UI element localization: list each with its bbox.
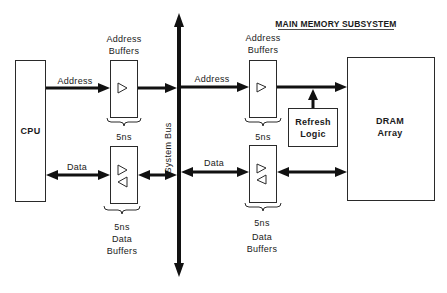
arrow-left-icon — [46, 170, 58, 180]
arrow-right-icon — [237, 82, 249, 92]
cpu-address-buffers: Address Buffers 5ns — [106, 34, 141, 142]
cpu-data-buffers-label-1: Data — [112, 234, 132, 244]
cpu-data-buffers-label-2: Buffers — [107, 246, 138, 256]
arrow-right-icon — [98, 83, 110, 93]
dram-array-block: DRAM Array — [348, 58, 435, 201]
brace-icon — [104, 206, 140, 214]
arrow-right-icon — [335, 82, 347, 92]
dram-label-1: DRAM — [376, 116, 404, 126]
subsystem-title-text: MAIN MEMORY SUBSYSTEM — [275, 19, 396, 29]
memory-address-buffer-delay: 5ns — [255, 132, 271, 142]
arrow-right-icon — [98, 170, 110, 180]
memory-subsystem-diagram: MAIN MEMORY SUBSYSTEM System Bus CPU Add… — [0, 0, 447, 293]
cpu-address-buffer-delay: 5ns — [116, 132, 132, 142]
bus-arrow-up-icon — [174, 13, 184, 27]
cpu-address-signal-label: Address — [57, 76, 92, 86]
system-bus: System Bus — [163, 13, 184, 277]
memory-data-signal-label: Data — [204, 158, 224, 168]
memory-data-buffer-box — [250, 146, 277, 203]
refresh-logic-block: Refresh Logic — [289, 89, 338, 147]
refresh-logic-label-2: Logic — [300, 129, 326, 139]
dram-label-2: Array — [377, 128, 402, 138]
arrow-left-icon — [181, 167, 193, 177]
system-bus-label: System Bus — [163, 122, 173, 173]
cpu-address-buffer-box — [111, 61, 138, 118]
cpu-block: CPU — [16, 61, 46, 202]
arrow-left-icon — [277, 167, 289, 177]
brace-icon — [245, 118, 281, 126]
cpu-address-buffers-label-1: Address — [106, 34, 141, 44]
arrow-right-icon — [165, 83, 177, 93]
refresh-logic-box — [289, 109, 338, 147]
bus-arrow-down-icon — [174, 263, 184, 277]
memory-data-buffers-label-1: Data — [252, 232, 272, 242]
cpu-address-buffers-label-2: Buffers — [109, 46, 140, 56]
memory-data-buffers: 5ns Data Buffers — [245, 146, 281, 255]
brace-icon — [245, 203, 281, 211]
brace-icon — [107, 118, 141, 126]
arrow-left-icon — [138, 170, 150, 180]
cpu-data-signal-label: Data — [67, 162, 87, 172]
memory-address-buffers-label-2: Buffers — [248, 45, 279, 55]
cpu-data-buffers: 5ns Data Buffers — [104, 147, 140, 257]
memory-address-signal-label: Address — [194, 74, 229, 84]
memory-data-buffer-delay: 5ns — [254, 218, 270, 228]
cpu-data-buffer-box — [111, 147, 138, 204]
refresh-logic-label-1: Refresh — [295, 117, 331, 127]
arrow-up-icon — [308, 89, 318, 100]
memory-address-buffers-label-1: Address — [245, 33, 280, 43]
cpu-data-buffer-delay: 5ns — [114, 222, 130, 232]
cpu-label: CPU — [21, 126, 41, 136]
arrow-right-icon — [335, 167, 347, 177]
memory-data-buffers-label-2: Buffers — [247, 244, 278, 254]
memory-address-buffers: Address Buffers 5ns — [245, 33, 281, 142]
subsystem-title: MAIN MEMORY SUBSYSTEM — [275, 19, 396, 30]
arrow-right-icon — [237, 167, 249, 177]
